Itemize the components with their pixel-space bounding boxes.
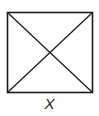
diagram-label: X [0, 95, 99, 113]
